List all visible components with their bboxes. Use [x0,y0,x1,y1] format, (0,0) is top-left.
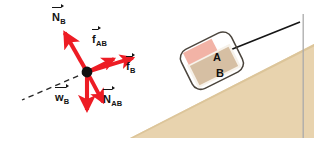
vector-symbol-w_B: w [55,91,64,103]
vector-overbar-N_B [52,7,61,8]
vector-overbar-tip-f_B [132,53,135,57]
vector-label-f_AB: fAB [92,30,107,46]
vector-arrow-N_B [65,33,87,72]
figure-canvas: NB fAB fB NAB wB A B [0,0,314,147]
vector-label-N_B: NB [52,8,65,24]
block-label-B: B [216,68,224,79]
vector-subscript-N_B: B [60,17,65,26]
vector-overbar-tip-f_AB [98,26,101,30]
vector-overbar-tip-w_B [66,84,69,88]
vector-label-N_AB: NAB [103,90,122,106]
vector-symbol-N_AB: N [103,93,111,105]
vector-overbar-w_B [55,87,66,88]
vector-subscript-f_B: B [130,66,135,75]
vector-label-w_B: wB [55,88,69,104]
vector-overbar-N_AB [103,89,112,90]
vector-subscript-N_AB: AB [111,99,122,108]
vector-subscript-w_B: B [64,97,69,106]
block-label-A: A [213,52,221,63]
vector-subscript-f_AB: AB [96,39,107,48]
bottom-margin [0,138,314,147]
vector-symbol-N_B: N [52,11,60,23]
vector-overbar-tip-N_AB [112,86,115,90]
vector-overbar-tip-N_B [61,4,64,8]
figure-svg [0,0,314,147]
origin-dot [82,67,93,78]
vector-label-f_B: fB [126,57,135,73]
